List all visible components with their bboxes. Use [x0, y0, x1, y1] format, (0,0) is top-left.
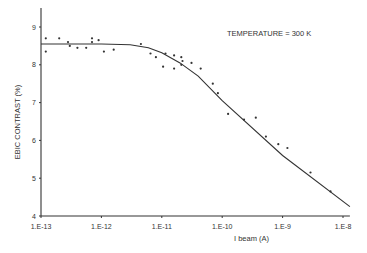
data-point	[91, 37, 93, 39]
x-tick-label: 1.E-8	[335, 223, 352, 230]
data-point	[162, 66, 164, 68]
y-tick-label: 7	[32, 99, 36, 106]
axes: 1.E-131.E-121.E-111.E-101.E-91.E-8456789	[31, 8, 352, 230]
fit-curve	[41, 44, 350, 207]
data-point	[329, 190, 331, 192]
x-tick-label: 1.E-12	[91, 223, 112, 230]
x-tick-label: 1.E-9	[274, 223, 291, 230]
data-point	[200, 68, 202, 70]
data-point	[91, 41, 93, 43]
ebic-contrast-chart: 1.E-131.E-121.E-111.E-101.E-91.E-8456789…	[0, 0, 367, 253]
data-point	[212, 83, 214, 85]
x-tick-label: 1.E-10	[212, 223, 233, 230]
temperature-annotation: TEMPERATURE = 300 K	[227, 29, 311, 38]
y-tick-label: 9	[32, 24, 36, 31]
data-point	[67, 41, 69, 43]
data-point	[149, 52, 151, 54]
data-point	[173, 68, 175, 70]
data-point	[45, 37, 47, 39]
data-point	[255, 117, 257, 119]
data-point	[243, 119, 245, 121]
fit-line	[41, 44, 350, 207]
y-tick-label: 6	[32, 137, 36, 144]
data-point	[309, 171, 311, 173]
x-tick-label: 1.E-11	[152, 223, 172, 230]
data-point	[180, 56, 182, 58]
data-point	[85, 47, 87, 49]
data-point	[58, 37, 60, 39]
y-tick-label: 4	[32, 213, 36, 220]
data-point	[173, 54, 175, 56]
data-point	[180, 64, 182, 66]
data-point	[76, 47, 78, 49]
data-point	[164, 52, 166, 54]
y-axis-label: EBIC CONTRAST (%)	[13, 84, 22, 159]
data-point	[181, 60, 183, 62]
x-tick-label: 1.E-13	[31, 223, 52, 230]
data-point	[113, 49, 115, 51]
data-point	[155, 56, 157, 58]
data-point	[217, 92, 219, 94]
data-point	[98, 39, 100, 41]
data-point	[45, 51, 47, 53]
data-point	[286, 147, 288, 149]
data-point	[69, 45, 71, 47]
y-tick-label: 5	[32, 175, 36, 182]
data-point	[103, 51, 105, 53]
data-points	[45, 37, 332, 192]
y-tick-label: 8	[32, 61, 36, 68]
data-point	[140, 43, 142, 45]
data-point	[190, 62, 192, 64]
x-axis-label: I beam (A)	[234, 234, 270, 243]
data-point	[277, 143, 279, 145]
data-point	[227, 113, 229, 115]
data-point	[265, 136, 267, 138]
